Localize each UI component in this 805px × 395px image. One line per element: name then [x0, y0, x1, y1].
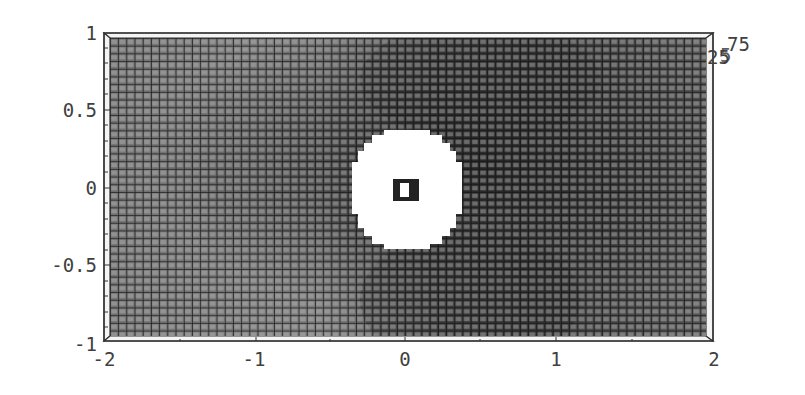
y-tick-label-1: 1	[17, 24, 97, 43]
z-tick-label-5: 5	[720, 44, 731, 66]
x-tick-label-neg2: -2	[74, 350, 134, 369]
y-tick-label-neg0.5: -0.5	[17, 256, 97, 275]
x-tick-label-1: 1	[526, 350, 586, 369]
center-box	[393, 179, 419, 201]
plot-canvas	[0, 0, 805, 395]
x-tick-label-2: 2	[684, 350, 744, 369]
y-tick-label-0.5: 0.5	[17, 101, 97, 120]
x-tick-label-0: 0	[375, 350, 435, 369]
y-tick-label-0: 0	[17, 179, 97, 198]
x-tick-label-neg1: -1	[224, 350, 284, 369]
